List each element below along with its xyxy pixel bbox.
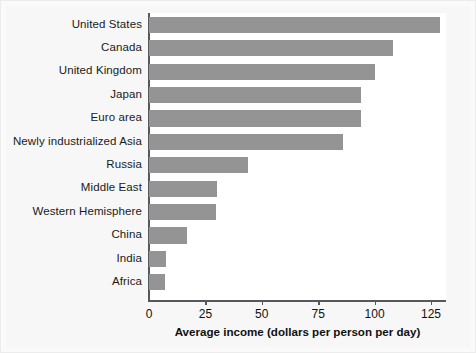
bar-row: Euro area — [0, 107, 476, 130]
category-label: Middle East — [81, 181, 142, 193]
bar — [149, 274, 165, 290]
x-tick-label: 50 — [255, 307, 268, 321]
bar-row: Newly industrialized Asia — [0, 131, 476, 154]
bar — [149, 64, 375, 80]
x-tick-label: 0 — [146, 307, 153, 321]
x-tick-label: 100 — [365, 307, 385, 321]
bar — [149, 87, 361, 103]
x-axis-line — [148, 300, 446, 302]
category-label: Russia — [106, 158, 142, 170]
bar — [149, 251, 166, 267]
bar — [149, 40, 393, 56]
category-label: China — [111, 228, 142, 240]
bar-chart-figure: United StatesCanadaUnited KingdomJapanEu… — [0, 0, 476, 353]
category-label: Africa — [112, 275, 142, 287]
bar — [149, 134, 343, 150]
bar-row: United States — [0, 14, 476, 37]
bar — [149, 110, 361, 126]
bar-row: United Kingdom — [0, 60, 476, 83]
category-label: Euro area — [91, 111, 142, 123]
category-label: United Kingdom — [59, 64, 142, 76]
bar-row: Japan — [0, 84, 476, 107]
bar-row: China — [0, 224, 476, 247]
bar-row: Russia — [0, 154, 476, 177]
bar — [149, 157, 248, 173]
x-tick-label: 75 — [312, 307, 325, 321]
bar-row: Western Hemisphere — [0, 201, 476, 224]
category-label: Canada — [101, 41, 142, 53]
bar — [149, 181, 217, 197]
category-label: Newly industrialized Asia — [13, 135, 142, 147]
bar — [149, 227, 187, 243]
x-axis-title: Average income (dollars per person per d… — [149, 325, 446, 338]
bar-row: India — [0, 248, 476, 271]
bar-row: Middle East — [0, 177, 476, 200]
x-tick-mark — [205, 300, 206, 305]
x-tick-mark — [431, 300, 432, 305]
x-tick-mark — [262, 300, 263, 305]
bar — [149, 204, 216, 220]
category-label: India — [117, 252, 142, 264]
category-label: Japan — [110, 88, 142, 100]
x-tick-mark — [318, 300, 319, 305]
category-label: Western Hemisphere — [32, 205, 142, 217]
x-tick-mark — [375, 300, 376, 305]
x-tick-label: 125 — [421, 307, 441, 321]
bar-row: Canada — [0, 37, 476, 60]
bar-row: Africa — [0, 271, 476, 294]
bar — [149, 17, 440, 33]
x-tick-label: 25 — [199, 307, 212, 321]
category-label: United States — [72, 18, 142, 30]
